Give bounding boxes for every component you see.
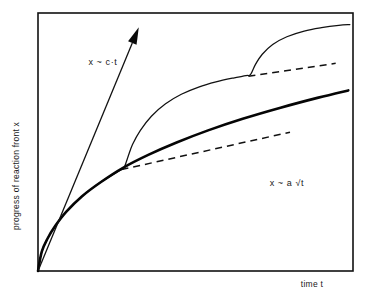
- y-axis-label: progress of reaction front x: [11, 121, 21, 230]
- upper-dashed-asymptote: [248, 63, 335, 76]
- x-axis-label: time t: [301, 279, 324, 289]
- stepped-breakaway-curve: [38, 25, 350, 271]
- sqrt-law-annotation: x ~ a √t: [270, 178, 305, 188]
- reaction-front-kinetics-figure: progress of reaction front x time t x ~ …: [0, 0, 370, 299]
- linear-growth-arrow-shaft: [38, 43, 132, 271]
- linear-law-annotation: x ~ c·t: [88, 57, 117, 67]
- lower-dashed-asymptote: [121, 132, 290, 169]
- linear-growth-arrow-head: [128, 27, 139, 44]
- plot-frame: [38, 13, 353, 271]
